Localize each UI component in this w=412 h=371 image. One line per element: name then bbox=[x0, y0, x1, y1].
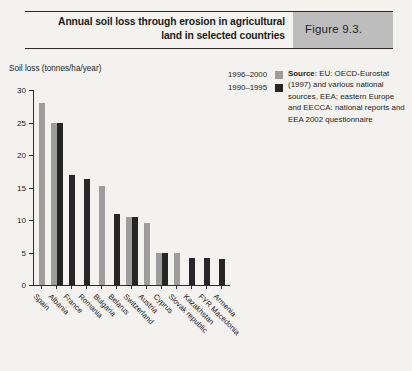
bar bbox=[189, 258, 195, 285]
y-axis-tick bbox=[29, 188, 33, 189]
header-rule-bottom bbox=[25, 48, 393, 49]
y-axis-tick bbox=[29, 285, 33, 286]
bar bbox=[219, 259, 225, 285]
x-axis-tick-labels: SpainAlbaniaFranceRomaniaBulgariaBelarus… bbox=[33, 289, 253, 371]
y-axis-tick-labels: 051015202530 bbox=[2, 90, 26, 286]
bar-group bbox=[84, 90, 90, 285]
bar-group bbox=[174, 90, 180, 285]
legend-item-label: 1990–1995 bbox=[228, 83, 267, 92]
source-prefix: Source bbox=[288, 69, 315, 78]
bar-group bbox=[51, 90, 63, 285]
bar-group bbox=[99, 90, 105, 285]
y-axis-tick bbox=[29, 123, 33, 124]
figure-page: Annual soil loss through erosion in agri… bbox=[0, 0, 412, 371]
bar-group bbox=[126, 90, 138, 285]
bar bbox=[162, 253, 168, 285]
bar bbox=[69, 175, 75, 286]
bar-group bbox=[219, 90, 225, 285]
plot-area bbox=[33, 90, 229, 285]
bar bbox=[39, 103, 45, 285]
figure-header: Annual soil loss through erosion in agri… bbox=[25, 11, 393, 49]
bar-group bbox=[189, 90, 195, 285]
bar bbox=[132, 217, 138, 285]
y-axis-tick-label: 0 bbox=[4, 281, 26, 290]
bar bbox=[84, 179, 90, 285]
y-axis-tick-label: 5 bbox=[4, 249, 26, 258]
y-axis-tick bbox=[29, 220, 33, 221]
legend-swatch-icon bbox=[275, 84, 283, 92]
bar-series-container bbox=[33, 90, 229, 285]
bar-group bbox=[204, 90, 210, 285]
bar-group bbox=[114, 90, 120, 285]
page-title: Annual soil loss through erosion in agri… bbox=[35, 15, 285, 45]
legend-item: 1996–2000 bbox=[203, 69, 283, 82]
figure-number-label: Figure 9.3. bbox=[305, 23, 362, 35]
bar bbox=[99, 186, 105, 285]
y-axis-tick bbox=[29, 155, 33, 156]
bar-group bbox=[39, 90, 45, 285]
y-axis-tick-label: 20 bbox=[4, 151, 26, 160]
legend-item-label: 1996–2000 bbox=[228, 70, 267, 79]
bar bbox=[114, 214, 120, 286]
y-axis-tick-label: 25 bbox=[4, 119, 26, 128]
y-axis-tick-label: 30 bbox=[4, 86, 26, 95]
bar bbox=[174, 253, 180, 285]
bar-group bbox=[69, 90, 75, 285]
bar bbox=[57, 123, 63, 286]
y-axis-tick-label: 10 bbox=[4, 216, 26, 225]
legend-swatch-icon bbox=[275, 71, 283, 79]
bar bbox=[144, 223, 150, 285]
y-axis-tick bbox=[29, 90, 33, 91]
source-note: Source: EU: OECD-Eurostat (1997) and var… bbox=[288, 68, 406, 125]
bar-group bbox=[144, 90, 150, 285]
y-axis-tick bbox=[29, 253, 33, 254]
y-axis-title: Soil loss (tonnes/ha/year) bbox=[9, 64, 101, 73]
figure-number-box: Figure 9.3. bbox=[293, 12, 393, 48]
bar bbox=[204, 258, 210, 285]
y-axis-tick-label: 15 bbox=[4, 184, 26, 193]
bar-group bbox=[156, 90, 168, 285]
